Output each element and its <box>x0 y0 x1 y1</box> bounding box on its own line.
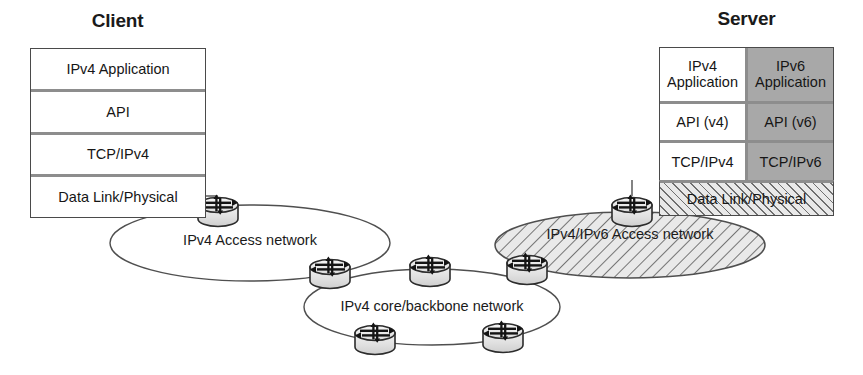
server-cell-ipv4-application: IPv4 Application <box>660 48 748 101</box>
cloud-label-ipv4-core: IPv4 core/backbone network <box>322 298 542 314</box>
server-layer-datalink-physical: Data Link/Physical <box>659 180 834 216</box>
server-protocol-stack: IPv4 Application IPv6 Application API (v… <box>659 47 834 180</box>
server-datalink-row: Data Link/Physical <box>660 183 833 215</box>
client-layer-api: API <box>31 92 205 132</box>
client-layer-transport: TCP/IPv4 <box>31 135 205 175</box>
server-layer-row-transport: TCP/IPv4 TCP/IPv6 <box>660 140 833 180</box>
client-protocol-stack: IPv4 Application API TCP/IPv4 Data Link/… <box>30 48 206 218</box>
router-core-bot-left <box>355 323 395 355</box>
router-core-top-right <box>507 253 547 285</box>
router-access-core <box>310 257 350 289</box>
server-cell-api-v4: API (v4) <box>660 104 748 141</box>
router-core-top-mid <box>410 255 450 287</box>
network-topology-diagram: Client IPv4 Application API TCP/IPv4 Dat… <box>0 0 863 375</box>
server-datalink-label: Data Link/Physical <box>660 183 833 215</box>
server-cell-ipv6-application: IPv6 Application <box>748 48 833 101</box>
client-layer-application: IPv4 Application <box>31 49 205 89</box>
client-layer-datalink: Data Link/Physical <box>31 177 205 217</box>
client-layer-row: Data Link/Physical <box>31 174 205 217</box>
client-title: Client <box>30 10 205 32</box>
router-server-access <box>612 195 652 227</box>
router-core-bot-right <box>483 321 523 353</box>
server-layer-row-application: IPv4 Application IPv6 Application <box>660 48 833 101</box>
cloud-label-ipv4-ipv6-access: IPv4/IPv6 Access network <box>520 226 740 242</box>
network-links <box>205 180 632 196</box>
server-cell-tcp-ipv6: TCP/IPv6 <box>748 143 833 180</box>
client-layer-row: IPv4 Application <box>31 49 205 89</box>
cloud-label-ipv4-access: IPv4 Access network <box>150 232 350 248</box>
server-cell-tcp-ipv4: TCP/IPv4 <box>660 143 748 180</box>
server-cell-api-v6: API (v6) <box>748 104 833 141</box>
server-layer-row-api: API (v4) API (v6) <box>660 101 833 141</box>
server-title: Server <box>659 8 834 30</box>
client-layer-row: TCP/IPv4 <box>31 132 205 175</box>
client-layer-row: API <box>31 89 205 132</box>
